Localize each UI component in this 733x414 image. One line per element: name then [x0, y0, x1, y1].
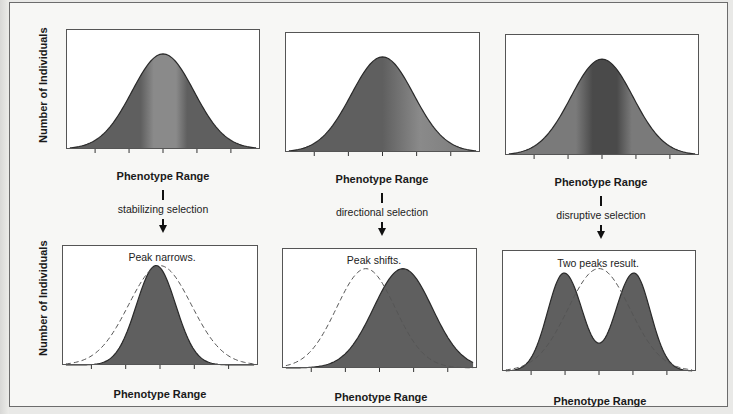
x-axis-label-before-directional: Phenotype Range [336, 173, 429, 185]
x-axis-label-after-stabilizing: Phenotype Range [114, 388, 207, 400]
chart-svg [502, 250, 696, 379]
arrow-down-icon-directional [378, 228, 386, 236]
page-edge-shadow [0, 0, 9, 414]
chart-after-directional [282, 248, 477, 368]
chart-svg [505, 34, 699, 163]
chart-svg [66, 29, 260, 157]
connector-line-disruptive [600, 196, 602, 206]
x-axis-label-before-disruptive: Phenotype Range [555, 176, 648, 188]
x-axis-label-after-disruptive: Phenotype Range [554, 395, 647, 407]
chart-before-directional [285, 32, 480, 152]
x-axis-label-after-directional: Phenotype Range [335, 391, 428, 403]
x-axis-label-before-stabilizing: Phenotype Range [117, 170, 210, 182]
annotation-peak-narrows: Peak narrows. [128, 251, 195, 263]
connector-line-stabilizing [162, 190, 164, 200]
connector-line-directional [381, 193, 383, 203]
y-axis-label-bottom: Number of Individuals [37, 240, 49, 356]
selection-label-directional: directional selection [336, 206, 428, 218]
arrow-down-icon-stabilizing [159, 225, 167, 233]
chart-before-disruptive [505, 34, 699, 155]
chart-svg [285, 32, 480, 160]
annotation-two-peaks: Two peaks result. [557, 257, 639, 269]
chart-before-stabilizing [66, 29, 260, 149]
chart-after-stabilizing [62, 245, 258, 365]
selection-label-stabilizing: stabilizing selection [118, 203, 208, 215]
chart-svg [62, 245, 258, 373]
arrow-down-icon-disruptive [597, 231, 605, 239]
annotation-peak-shifts: Peak shifts. [347, 254, 401, 266]
y-axis-label-top: Number of Individuals [37, 27, 49, 143]
selection-label-disruptive: disruptive selection [556, 209, 645, 221]
chart-svg [282, 248, 477, 376]
